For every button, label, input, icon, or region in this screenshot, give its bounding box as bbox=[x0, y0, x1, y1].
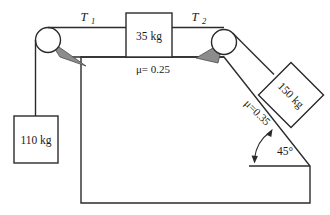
label-block-110kg: 110 kg bbox=[20, 134, 51, 147]
label-incline-angle: 45° bbox=[277, 145, 294, 157]
label-tension-t2-subscript: 2 bbox=[202, 16, 207, 26]
diagram-canvas: T 1 T 2 35 kg μ= 0.25 110 kg 150 kg μ=0.… bbox=[0, 0, 330, 215]
physics-diagram-figure: T 1 T 2 35 kg μ= 0.25 110 kg 150 kg μ=0.… bbox=[0, 0, 330, 215]
angle-arc bbox=[255, 132, 271, 159]
left-pulley bbox=[36, 28, 61, 53]
right-pulley bbox=[212, 30, 237, 55]
angle-arc-arrowhead-bottom bbox=[252, 155, 258, 163]
label-tension-t2: T bbox=[192, 10, 200, 24]
cord-incline bbox=[233, 33, 274, 74]
label-tension-t1-subscript: 1 bbox=[91, 16, 95, 26]
label-tension-t1: T bbox=[81, 10, 89, 24]
label-block-35kg: 35 kg bbox=[136, 30, 162, 43]
angle-arc-arrowhead-top bbox=[266, 129, 273, 137]
label-friction-table: μ= 0.25 bbox=[136, 63, 171, 75]
